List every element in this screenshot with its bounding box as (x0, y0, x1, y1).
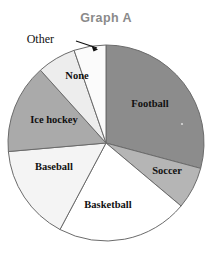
pie-slice-label-baseball: Baseball (35, 161, 73, 172)
pie-slice-label-basketball: Basketball (84, 199, 131, 210)
scan-speck (181, 123, 183, 125)
pie-chart-canvas: FootballSoccerBasketballBaseballIce hock… (0, 0, 212, 253)
callout-label-other: Other (27, 32, 54, 46)
pie-slice-label-soccer: Soccer (152, 165, 182, 176)
pie-slices-group (8, 45, 204, 241)
pie-slice-label-none: None (65, 70, 89, 81)
pie-chart-figure: Graph A FootballSoccerBasketballBaseball… (0, 0, 212, 253)
pie-slice-label-football: Football (131, 98, 168, 109)
pie-slice-label-ice-hockey: Ice hockey (30, 114, 78, 125)
